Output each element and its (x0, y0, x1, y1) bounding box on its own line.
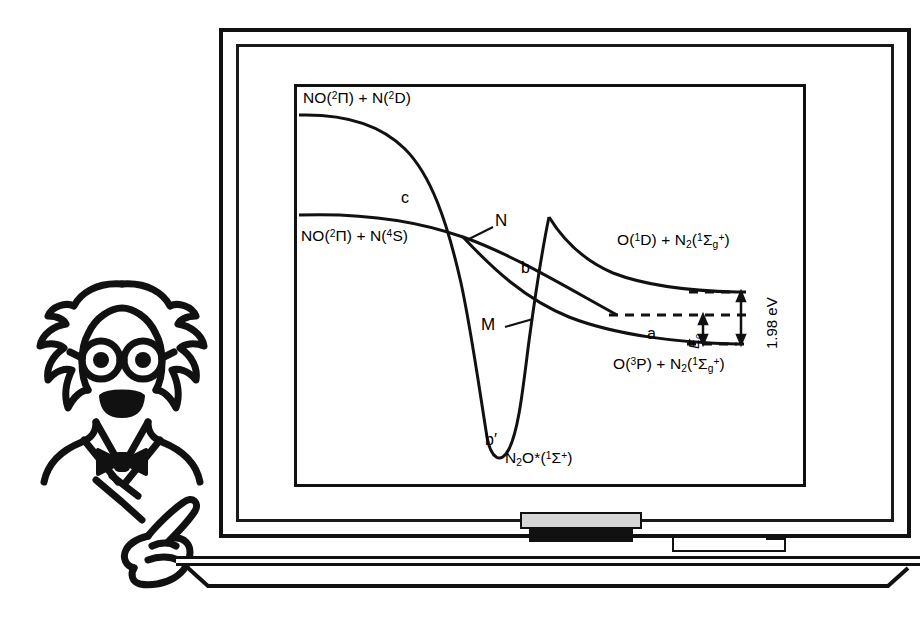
chalk-body (672, 536, 768, 552)
curve-b (549, 217, 737, 292)
crossing-point-label-m: M (481, 315, 495, 335)
eraser[interactable] (520, 512, 642, 540)
curve-label-a: a (647, 325, 656, 343)
curve-label-b-prime: b′ (485, 431, 497, 449)
potential-energy-curves (297, 87, 803, 484)
eraser-felt (529, 529, 633, 542)
leader-line-n (469, 227, 493, 239)
leader-line-m (505, 319, 533, 327)
chalk[interactable] (672, 536, 790, 552)
eraser-body (520, 512, 642, 529)
label-asymptote-lower-left: NO(2Π) + N(4S) (301, 227, 408, 245)
energy-label-1-98-ev: 1.98 eV (763, 297, 780, 349)
label-asymptote-lower-right: O(3P) + N2(1Σg+) (613, 355, 725, 374)
arrow-1-98-ev (737, 292, 745, 344)
chalk-ledge (176, 556, 920, 566)
potential-energy-chart-panel: NO(2Π) + N(2D) NO(2Π) + N(4S) O(1D) + N2… (294, 84, 806, 487)
screenshot-root: NO(2Π) + N(2D) NO(2Π) + N(4S) O(1D) + N2… (0, 0, 923, 619)
label-asymptote-upper-right: O(1D) + N2(1Σg+) (617, 231, 730, 250)
curve-label-c: c (401, 189, 409, 207)
curve-label-b: b (521, 259, 530, 277)
cartoon-scientist (22, 272, 222, 482)
label-well-n2o: N2O*(1Σ+) (505, 449, 572, 468)
energy-label-e0: E0 (685, 333, 704, 349)
label-asymptote-upper-left: NO(2Π) + N(2D) (303, 89, 411, 107)
curve-b-prime (299, 115, 549, 458)
chalk-tip (766, 538, 786, 552)
chalk-ledge-front (186, 566, 910, 588)
crossing-point-label-n: N (495, 211, 507, 231)
